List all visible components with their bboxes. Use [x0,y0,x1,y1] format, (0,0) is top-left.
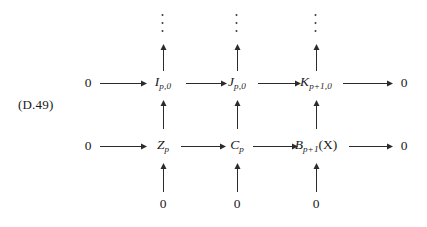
zero-bottom-col3: 0 [313,197,320,211]
vertical-arrow-zero-to-B [312,164,321,192]
arrow-head-right-icon [387,143,393,149]
zero-label: 0 [313,196,320,211]
arrow-shaft [253,146,297,147]
zero-bottom-col1: 0 [160,197,167,211]
node-subscript: p [164,144,169,154]
arrow-shaft [100,146,146,147]
ellipsis-dot [236,30,238,32]
arrow-K-to-zero [343,79,392,88]
zero-label: 0 [234,196,241,211]
ellipsis-dot [315,30,317,32]
node-J-p-0: Jp,0 [228,75,246,91]
zero-label: 0 [401,138,408,153]
vertical-arrow-dots-to-J [233,45,242,71]
equation-tag: (D.49) [18,97,54,113]
arrow-head-right-icon [292,143,298,149]
vertical-arrow-dots-to-I [159,45,168,71]
arrow-C-to-B [253,142,297,151]
arrow-shaft [343,83,392,84]
vertical-arrow-zero-to-C [233,164,242,192]
arrow-shaft [100,83,146,84]
node-B-p1-X: Bp+1(X) [295,138,338,154]
arrow-head-up-icon [234,163,240,169]
ellipsis-dot [315,22,317,24]
arrow-head-up-icon [313,44,319,50]
ellipsis-dot [162,22,164,24]
arrow-J-to-K [258,79,300,88]
ellipsis-dot [162,14,164,16]
vertical-arrow-B-to-K [312,101,321,129]
arrow-head-up-icon [313,163,319,169]
arrow-shaft [186,83,226,84]
arrow-head-right-icon [295,80,301,86]
arrow-head-right-icon [141,143,147,149]
arrow-head-up-icon [160,163,166,169]
ellipsis-dot [162,30,164,32]
commutative-diagram: (D.49) 0 Ip,0 Jp,0 Kp+1,0 [0,0,427,227]
arrow-head-right-icon [220,143,226,149]
zero-bottom-col2: 0 [234,197,241,211]
vertical-arrow-C-to-J [233,101,242,129]
arrow-head-right-icon [387,80,393,86]
zero-left-bottom: 0 [85,139,92,153]
vertical-ellipsis-col3 [315,14,318,36]
vertical-arrow-dots-to-K [312,45,321,71]
node-base-letter: Z [157,137,165,152]
arrow-head-up-icon [160,44,166,50]
arrow-head-right-icon [141,80,147,86]
arrow-zero-to-I [100,79,146,88]
node-subscript: p+1 [303,144,319,154]
zero-label: 0 [160,196,167,211]
vertical-ellipsis-col1 [162,14,165,36]
node-Z-p: Zp [157,138,169,154]
node-subscript: p+1,0 [309,81,332,91]
vertical-arrow-zero-to-Z [159,164,168,192]
arrow-head-up-icon [313,100,319,106]
zero-right-top: 0 [401,76,408,90]
ellipsis-dot [236,22,238,24]
vertical-arrow-Z-to-I [159,101,168,129]
arrow-shaft [349,146,392,147]
arrow-head-up-icon [160,100,166,106]
arrow-I-to-J [186,79,226,88]
zero-label: 0 [85,138,92,153]
node-base-letter: C [230,137,239,152]
arrow-head-up-icon [234,44,240,50]
node-K-p1-0: Kp+1,0 [300,75,332,91]
zero-label: 0 [85,75,92,90]
node-subscript: p,0 [159,81,171,91]
arrow-head-right-icon [221,80,227,86]
ellipsis-dot [315,14,317,16]
ellipsis-dot [236,14,238,16]
arrow-shaft [258,83,300,84]
node-argument: (X) [319,137,338,152]
node-base-letter: K [300,74,309,89]
arrow-Z-to-C [181,142,225,151]
zero-right-bottom: 0 [401,139,408,153]
node-subscript: p,0 [234,81,246,91]
zero-label: 0 [401,75,408,90]
arrow-shaft [181,146,225,147]
node-subscript: p [239,144,244,154]
arrow-head-up-icon [234,100,240,106]
node-C-p: Cp [230,138,244,154]
arrow-zero-to-Z [100,142,146,151]
zero-left-top: 0 [85,76,92,90]
arrow-B-to-zero [349,142,392,151]
node-I-p-0: Ip,0 [155,75,171,91]
vertical-ellipsis-col2 [236,14,239,36]
